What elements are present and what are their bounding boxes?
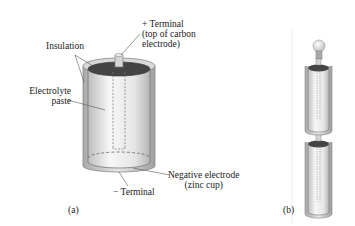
- label-positive-terminal-line3: electrode): [142, 39, 196, 49]
- label-electrolyte: Electrolyte paste: [17, 86, 71, 106]
- caption-a: (a): [68, 205, 79, 215]
- dry-cell-a: [68, 34, 170, 186]
- label-positive-terminal-line2: (top of carbon: [142, 29, 196, 39]
- label-negative-terminal: − Terminal: [113, 187, 155, 197]
- label-negative-electrode: Negative electrode (zinc cup): [168, 170, 239, 190]
- label-positive-terminal-line1: + Terminal: [142, 19, 196, 29]
- light-bulb: [313, 40, 325, 52]
- label-electrolyte-line2: paste: [17, 96, 71, 106]
- caption-b: (b): [283, 205, 294, 215]
- zinc-cup: [88, 69, 150, 168]
- label-negative-electrode-line1: Negative electrode: [168, 170, 239, 180]
- label-insulation: Insulation: [46, 41, 84, 51]
- series-cells-b: [292, 30, 332, 224]
- label-positive-terminal: + Terminal (top of carbon electrode): [142, 19, 196, 49]
- positive-terminal-cap: [115, 55, 123, 67]
- label-electrolyte-line1: Electrolyte: [17, 86, 71, 96]
- label-negative-electrode-line2: (zinc cup): [168, 180, 239, 190]
